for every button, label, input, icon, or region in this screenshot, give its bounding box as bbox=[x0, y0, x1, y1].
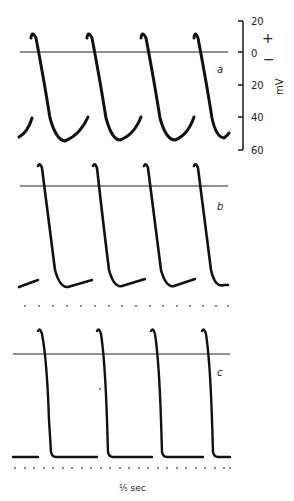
voltage-axis bbox=[238, 21, 243, 150]
y-tick-label: 60 bbox=[251, 145, 264, 156]
y-tick-label: 40 bbox=[251, 112, 264, 123]
panel-label-b: b bbox=[217, 201, 223, 212]
positive-sign: + bbox=[262, 30, 274, 46]
y-tick-label: 0 bbox=[251, 48, 257, 59]
y-tick-label: 20 bbox=[251, 16, 264, 27]
time-scale-label: ⅕ sec bbox=[119, 483, 146, 493]
time-markers-b bbox=[24, 305, 229, 307]
y-tick-label: 20 bbox=[251, 80, 264, 91]
trace-b bbox=[19, 164, 228, 287]
traces-svg bbox=[0, 0, 294, 501]
trace-c bbox=[13, 330, 230, 457]
time-markers-c bbox=[14, 467, 231, 469]
trace-a bbox=[19, 34, 229, 141]
negative-sign: − bbox=[263, 51, 275, 67]
y-unit-label: mV bbox=[274, 78, 285, 95]
panel-label-a: a bbox=[217, 64, 223, 75]
panel-label-c: c bbox=[217, 367, 223, 378]
figure: 20 0 20 40 60 + − mV a b c ⅕ sec bbox=[0, 0, 294, 501]
